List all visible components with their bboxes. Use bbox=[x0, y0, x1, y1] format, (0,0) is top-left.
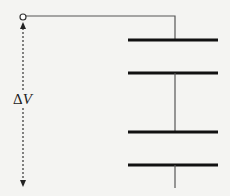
top-wire bbox=[26, 16, 175, 40]
circuit-diagram bbox=[0, 0, 230, 196]
arrowhead-down-icon bbox=[20, 180, 26, 187]
delta-v-label: ΔV bbox=[12, 91, 33, 107]
delta-symbol: Δ bbox=[13, 91, 23, 107]
arrowhead-up-icon bbox=[20, 22, 26, 29]
input-terminal bbox=[20, 14, 26, 20]
voltage-symbol: V bbox=[23, 91, 32, 107]
